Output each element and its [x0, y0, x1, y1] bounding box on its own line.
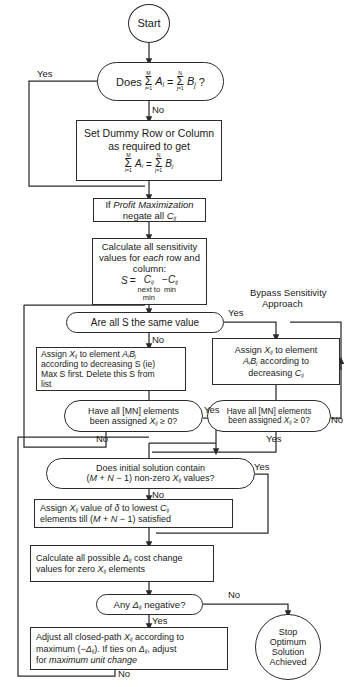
assign-c-line3: decreasing Cij	[248, 368, 304, 378]
degeneracy-line1: Does initial solution contain	[96, 463, 205, 473]
node-assign-delta[interactable]: Assign Xij value of δ to lowest Cij elem…	[34, 499, 233, 528]
any-negative-label: Any Δij negative?	[114, 599, 186, 610]
calc-sens-line1: Calculate all sensitivity	[102, 241, 198, 252]
node-assign-by-c[interactable]: Assign Xij to element AiBj according to …	[212, 338, 340, 385]
degeneracy-line2: (M + N − 1) non-zero Xij values?	[86, 473, 214, 483]
edge-label-no-assigned-right: No	[331, 414, 343, 425]
edge-label-no-assigned-left: No	[96, 433, 108, 444]
node-calc-deltas[interactable]: Calculate all possible Δij cost change v…	[30, 545, 214, 582]
adjust-line3: for maximum unit change	[36, 655, 137, 665]
assign-s-line1: Assign Xij to element AiBj	[41, 349, 136, 359]
calc-deltas-line1: Calculate all possible Δij cost change	[36, 553, 183, 563]
set-dummy-line1: Set Dummy Row or Column	[84, 127, 214, 139]
edge-label-no-balance: No	[152, 104, 164, 115]
equals-sign: =	[167, 76, 173, 88]
edge-label-no-loopback: No	[118, 668, 130, 679]
assign-s-line3: Max S first. Delete this S from	[41, 369, 155, 379]
term-A: Ai	[155, 75, 164, 88]
adjust-line2: maximum (−Δij). If ties on Δij, adjust	[36, 644, 176, 654]
assigned-left-line2: been assigned Xij ≥ 0?	[90, 416, 177, 426]
term-A-2: Ai	[135, 158, 143, 169]
assign-delta-line1: Assign Xij value of δ to lowest Cij	[40, 503, 169, 513]
term-B: Bj	[187, 75, 196, 88]
node-set-dummy[interactable]: Set Dummy Row or Column as required to g…	[76, 120, 222, 181]
sensitivity-formula: S = Cij next to min −Cij min	[121, 275, 178, 302]
assign-s-line4: list	[41, 379, 52, 389]
term-B-2: Bj	[165, 158, 173, 169]
edge-label-yes-assigned-right: Yes	[266, 433, 282, 444]
profit-max-line2: negate all Cij	[123, 210, 176, 221]
summation-right: N Σ j=1	[177, 71, 184, 91]
edge-label-no-negative: No	[228, 589, 240, 600]
stop-line3: Solution	[272, 647, 305, 657]
edge-label-no-all-s: No	[152, 334, 164, 345]
assign-c-line1: Assign Xij to element	[235, 345, 318, 355]
node-profit-max[interactable]: If Profit Maximization negate all Cij	[93, 198, 206, 222]
stop-line4: Achieved	[269, 657, 306, 667]
all-s-same-label: Are all S the same value	[91, 317, 199, 328]
assigned-left-line1: Have all [MN] elements	[88, 406, 179, 416]
node-stop[interactable]: Stop Optimum Solution Achieved	[255, 614, 321, 680]
node-start[interactable]: Start	[128, 4, 170, 43]
assign-s-line2: according to decreasing S (ie)	[41, 359, 155, 369]
assigned-right-line2: been assigned Xij ≥ 0?	[228, 416, 309, 425]
edge-label-no-degeneracy: No	[152, 489, 164, 500]
stop-line2: Optimum	[270, 637, 307, 647]
summation-left: M Σ i=1	[145, 71, 152, 91]
edge-label-yes-all-s: Yes	[228, 307, 244, 318]
calc-sens-line3: column:	[133, 263, 166, 274]
check-balance-prefix: Does	[116, 76, 142, 88]
calc-sens-line2: values for each row and	[99, 252, 200, 263]
node-any-negative[interactable]: Any Δij negative?	[96, 594, 203, 615]
node-degeneracy-check[interactable]: Does initial solution contain (M + N − 1…	[46, 458, 255, 489]
edge-label-yes-degeneracy: Yes	[254, 461, 270, 472]
node-all-assigned-left[interactable]: Have all [MN] elements been assigned Xij…	[64, 400, 203, 432]
node-adjust-path[interactable]: Adjust all closed-path Xij according to …	[30, 627, 228, 670]
summation-left-2: M Σ i=1	[125, 153, 132, 173]
node-all-assigned-right[interactable]: Have all [MN] elements been assigned Xij…	[207, 400, 331, 432]
assign-delta-line2: elements till (M + N − 1) satisfied	[40, 514, 171, 524]
node-check-balance[interactable]: Does M Σ i=1 Ai = N Σ j=1 Bj ?	[97, 62, 224, 101]
node-all-s-same[interactable]: Are all S the same value	[66, 312, 224, 333]
summation-right-2: N Σ j=1	[155, 153, 162, 173]
node-calc-sensitivity[interactable]: Calculate all sensitivity values for eac…	[92, 238, 207, 305]
edge-label-yes-balance: Yes	[37, 68, 53, 79]
assign-c-line2: AiBj according to	[243, 356, 309, 366]
profit-max-line1: If Profit Maximization	[105, 199, 193, 210]
node-assign-by-s[interactable]: Assign Xij to element AiBj according to …	[36, 347, 186, 391]
start-label: Start	[134, 16, 163, 31]
bypass-annotation-line2: Approach	[262, 298, 303, 309]
question-mark: ?	[199, 76, 205, 88]
bypass-annotation-line1: Bypass Sensitivity	[250, 287, 327, 298]
edge-label-yes-negative: Yes	[152, 615, 168, 626]
stop-line1: Stop	[279, 627, 298, 637]
assigned-right-line1: Have all [MN] elements	[227, 407, 312, 416]
set-dummy-line2: as required to get	[108, 140, 190, 152]
edge-label-yes-assigned-left: Yes	[204, 404, 220, 415]
equals-sign-2: =	[146, 159, 152, 170]
calc-deltas-line2: values for zero Xij elements	[36, 564, 145, 574]
adjust-line1: Adjust all closed-path Xij according to	[36, 632, 184, 642]
